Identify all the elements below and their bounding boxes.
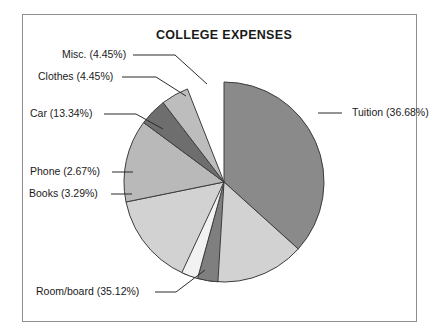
slice-label-clothes: Clothes (4.45%) <box>38 70 113 82</box>
leader-line-misc <box>133 55 207 84</box>
slice-label-room-board: Room/board (35.12%) <box>36 285 139 297</box>
pie-slices-group <box>124 82 324 282</box>
leader-line-clothes <box>122 77 186 96</box>
pie-chart-canvas: COLLEGE EXPENSES Tuition (36.68%)Room/bo… <box>0 0 440 336</box>
slice-label-books: Books (3.29%) <box>29 187 98 199</box>
slice-label-phone: Phone (2.67%) <box>30 165 100 177</box>
chart-title: COLLEGE EXPENSES <box>156 28 292 42</box>
slice-label-misc: Misc. (4.45%) <box>62 48 126 60</box>
chart-container: COLLEGE EXPENSES Tuition (36.68%)Room/bo… <box>0 0 440 336</box>
slice-label-car: Car (13.34%) <box>30 107 92 119</box>
slice-label-tuition: Tuition (36.68%) <box>352 106 429 118</box>
